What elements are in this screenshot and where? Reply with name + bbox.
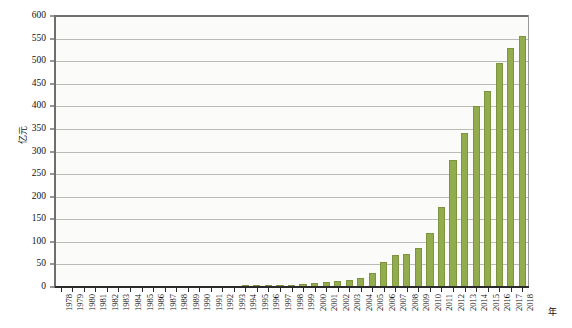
x-tick-mark — [292, 288, 293, 292]
x-tick-mark — [107, 288, 108, 292]
gridline — [55, 264, 528, 265]
x-tick-label: 1994 — [249, 294, 258, 311]
gridline — [55, 152, 528, 153]
x-tick-mark — [488, 288, 489, 292]
x-tick-label: 1983 — [122, 294, 131, 311]
gridline — [55, 242, 528, 243]
x-tick-mark — [165, 288, 166, 292]
x-tick-mark — [453, 288, 454, 292]
bar — [403, 254, 410, 287]
x-tick-mark — [326, 288, 327, 292]
x-tick-label: 1986 — [157, 294, 166, 311]
y-tick-label: 300 — [6, 147, 46, 157]
bar — [415, 248, 422, 287]
x-tick-label: 1998 — [296, 294, 305, 311]
gridline — [55, 197, 528, 198]
x-tick-label: 2008 — [411, 294, 420, 311]
x-tick-mark — [395, 288, 396, 292]
x-tick-label: 1980 — [88, 294, 97, 311]
x-tick-mark — [130, 288, 131, 292]
bar — [380, 262, 387, 287]
gridline — [55, 174, 528, 175]
x-tick-mark — [153, 288, 154, 292]
x-tick-label: 1997 — [284, 294, 293, 311]
y-tick-label: 350 — [6, 124, 46, 134]
x-tick-label: 1996 — [272, 294, 281, 311]
x-tick-label: 2003 — [353, 294, 362, 311]
x-tick-label: 2010 — [434, 294, 443, 311]
x-tick-mark — [118, 288, 119, 292]
bar — [438, 207, 445, 287]
bar — [484, 91, 491, 287]
x-tick-mark — [199, 288, 200, 292]
y-tick-label: 600 — [6, 11, 46, 21]
bar — [507, 48, 514, 287]
plot-area — [55, 16, 528, 287]
x-tick-label: 2007 — [399, 294, 408, 311]
y-tick-label: 50 — [6, 260, 46, 270]
y-tick-label: 250 — [6, 169, 46, 179]
x-tick-label: 1991 — [215, 294, 224, 311]
plot-border-right — [528, 15, 529, 288]
x-tick-mark — [384, 288, 385, 292]
x-tick-label: 1990 — [203, 294, 212, 311]
y-tick-label: 500 — [6, 56, 46, 66]
y-tick-label: 450 — [6, 79, 46, 89]
x-tick-mark — [511, 288, 512, 292]
y-tick-label: 550 — [6, 34, 46, 44]
bar — [461, 133, 468, 287]
x-tick-mark — [499, 288, 500, 292]
gridline — [55, 61, 528, 62]
bar — [369, 273, 376, 287]
x-tick-mark — [338, 288, 339, 292]
y-tick-label: 0 — [6, 282, 46, 292]
x-tick-label: 2016 — [503, 294, 512, 311]
bar — [473, 106, 480, 287]
bar — [519, 36, 526, 287]
x-tick-label: 2004 — [365, 294, 374, 311]
bar — [449, 160, 456, 287]
gridline — [55, 84, 528, 85]
x-tick-label: 1985 — [146, 294, 155, 311]
gridline — [55, 219, 528, 220]
x-tick-mark — [465, 288, 466, 292]
x-tick-mark — [268, 288, 269, 292]
gridline — [55, 39, 528, 40]
x-tick-mark — [142, 288, 143, 292]
x-tick-mark — [257, 288, 258, 292]
x-tick-label: 2006 — [388, 294, 397, 311]
x-tick-mark — [222, 288, 223, 292]
y-tick-label: 100 — [6, 237, 46, 247]
x-tick-label: 2011 — [445, 294, 454, 311]
x-tick-label: 2000 — [319, 294, 328, 311]
x-tick-mark — [441, 288, 442, 292]
x-tick-mark — [72, 288, 73, 292]
x-tick-label: 2017 — [515, 294, 524, 311]
x-tick-mark — [361, 288, 362, 292]
x-tick-label: 1981 — [99, 294, 108, 311]
plot-border-top — [55, 15, 529, 17]
x-tick-label: 1978 — [65, 294, 74, 311]
y-tick-label: 200 — [6, 192, 46, 202]
bar — [392, 255, 399, 287]
x-tick-label: 2001 — [330, 294, 339, 311]
gridline — [55, 106, 528, 107]
plot-border-left — [54, 15, 56, 288]
x-tick-mark — [95, 288, 96, 292]
x-tick-mark — [280, 288, 281, 292]
y-tick-label: 150 — [6, 215, 46, 225]
x-tick-label: 1999 — [307, 294, 316, 311]
x-tick-mark — [372, 288, 373, 292]
x-tick-label: 1988 — [180, 294, 189, 311]
x-tick-label: 1987 — [169, 294, 178, 311]
x-tick-mark — [303, 288, 304, 292]
bar — [496, 63, 503, 287]
x-tick-label: 2002 — [342, 294, 351, 311]
x-tick-label: 1984 — [134, 294, 143, 311]
x-tick-label: 1979 — [76, 294, 85, 311]
x-tick-mark — [476, 288, 477, 292]
x-tick-label: 1992 — [226, 294, 235, 311]
x-tick-mark — [522, 288, 523, 292]
y-tick-label: 400 — [6, 102, 46, 112]
x-tick-mark — [211, 288, 212, 292]
